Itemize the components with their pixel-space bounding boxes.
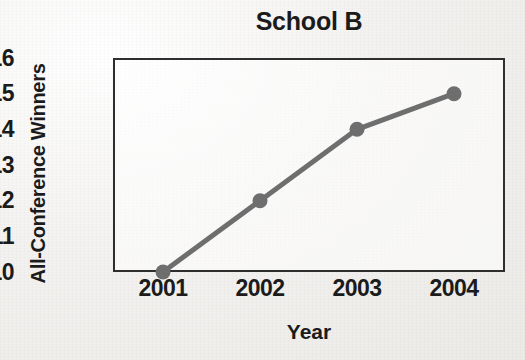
y-tick-label-13: 13 [0,154,14,177]
y-tick-label-15: 15 [0,82,14,105]
x-tick-label-2001: 2001 [118,277,208,300]
y-tick-label-10: 10 [0,261,14,284]
x-axis-title: Year [113,320,505,344]
x-tick-label-2002: 2002 [215,277,305,300]
x-tick-label-2003: 2003 [312,277,402,300]
data-point-2003 [350,122,365,137]
plot-series-svg [113,58,505,272]
data-point-2002 [253,193,268,208]
y-tick-label-14: 14 [0,118,14,141]
y-tick-label-16: 16 [0,47,14,70]
x-tick-label-2004: 2004 [409,277,499,300]
y-axis-title: All-Conference Winners [27,44,50,304]
line-chart-figure: School B All-Conference Winners 16 15 14… [0,0,525,360]
y-tick-label-12: 12 [0,189,14,212]
series-line-school-b [163,94,454,272]
chart-title: School B [113,6,505,36]
y-tick-label-11: 11 [0,225,14,248]
data-point-2004 [447,86,462,101]
